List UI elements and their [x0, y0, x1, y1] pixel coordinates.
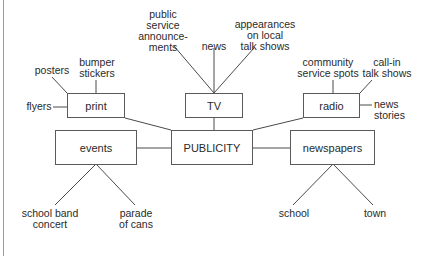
node-print: print: [67, 93, 125, 118]
node-publicity-label: PUBLICITY: [184, 142, 241, 154]
leaf-news: news: [198, 41, 230, 52]
node-events: events: [55, 130, 137, 165]
node-radio: radio: [303, 93, 360, 118]
leaf-appearances-local-talk-shows: appearances on local talk shows: [234, 19, 296, 52]
node-newspapers-label: newspapers: [303, 142, 362, 154]
leaf-flyers: flyers: [24, 101, 54, 112]
node-tv: TV: [185, 93, 243, 118]
node-print-label: print: [85, 100, 106, 112]
node-tv-label: TV: [207, 100, 221, 112]
node-events-label: events: [80, 142, 112, 154]
leaf-parade-of-cans: parade of cans: [116, 208, 156, 230]
leaf-school-band-concert: school band concert: [18, 208, 82, 230]
node-radio-label: radio: [319, 100, 343, 112]
leaf-posters: posters: [32, 65, 72, 76]
leaf-school: school: [274, 208, 314, 219]
leaf-news-stories: news stories: [374, 99, 414, 121]
leaf-bumper-stickers: bumper stickers: [76, 57, 118, 79]
node-newspapers: newspapers: [290, 130, 375, 165]
leaf-public-service-announcements: public service announce- ments: [138, 9, 188, 53]
node-publicity: PUBLICITY: [171, 130, 253, 165]
leaf-call-in-talk-shows: call-in talk shows: [362, 57, 412, 79]
leaf-community-service-spots: community service spots: [296, 57, 360, 79]
leaf-town: town: [360, 208, 390, 219]
